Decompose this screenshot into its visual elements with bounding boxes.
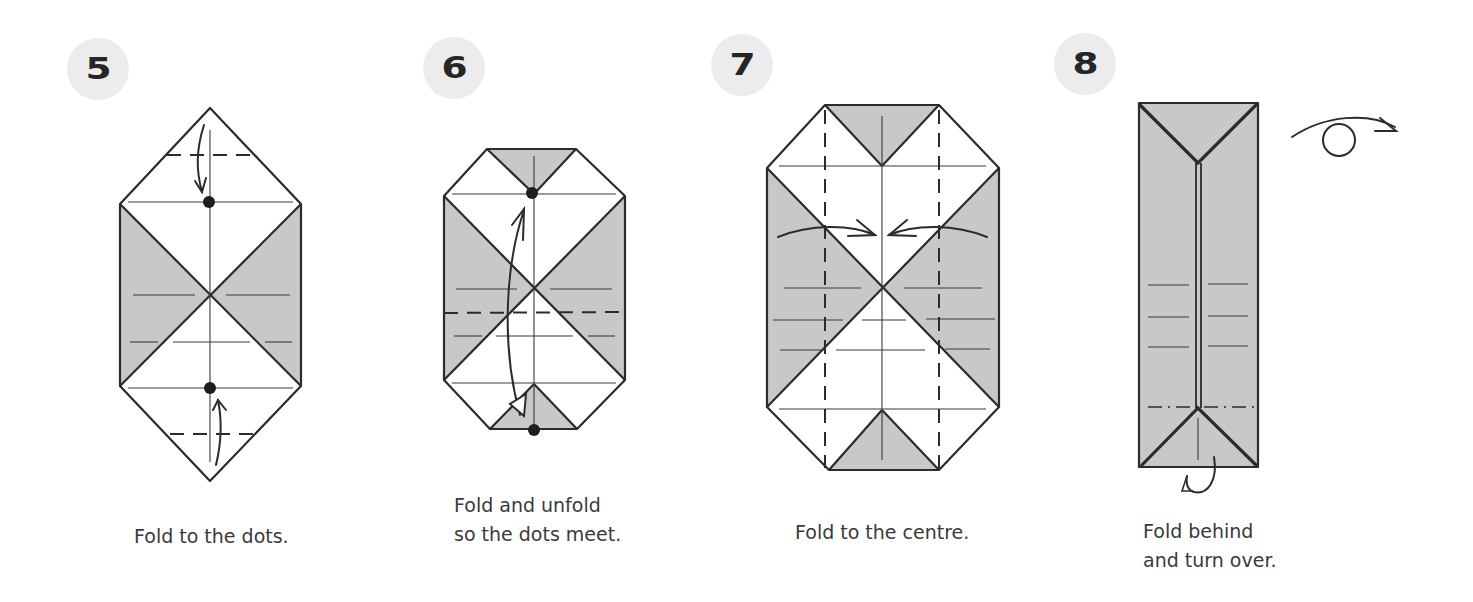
step-8: 8 Fold behind and turn over. xyxy=(1050,0,1473,602)
dot-top xyxy=(203,196,215,208)
step-7: 7 Fold to the centre. xyxy=(690,0,1050,602)
turn-over-arrow-icon xyxy=(1292,118,1396,156)
grey-flap-right xyxy=(534,196,625,380)
step-caption: Fold to the centre. xyxy=(795,518,969,547)
step-6: 6 Fold and unfold so the dots meet. xyxy=(360,0,690,602)
fold-arrow-up-icon xyxy=(213,400,226,465)
step-caption: Fold and unfold so the dots meet. xyxy=(454,491,621,549)
step-5-diagram xyxy=(0,0,360,602)
dot-bottom xyxy=(528,424,540,436)
step-7-diagram xyxy=(690,0,1050,602)
dot-bottom xyxy=(204,382,216,394)
grey-flap-bottom xyxy=(829,410,939,470)
step-caption: Fold behind and turn over. xyxy=(1143,517,1277,575)
step-5: 5 Fold to the dots. xyxy=(0,0,360,602)
step-caption: Fold to the dots. xyxy=(134,522,289,551)
step-8-diagram xyxy=(1050,0,1473,602)
fold-arrow-down-icon xyxy=(195,125,206,192)
dot-top xyxy=(526,187,538,199)
